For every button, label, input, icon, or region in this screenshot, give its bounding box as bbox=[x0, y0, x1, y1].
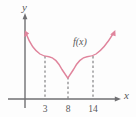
x-tick-label-8: 8 bbox=[66, 104, 71, 114]
x-tick-label-3: 3 bbox=[43, 104, 48, 114]
function-curve bbox=[27, 34, 114, 78]
x-axis-arrowhead bbox=[115, 97, 121, 102]
y-axis-arrowhead bbox=[23, 13, 28, 19]
x-axis-label: x bbox=[123, 89, 129, 101]
function-curve-label: f(x) bbox=[73, 36, 88, 48]
x-tick-label-14: 14 bbox=[88, 104, 98, 114]
axes bbox=[8, 13, 121, 108]
y-axis-label: y bbox=[21, 1, 27, 13]
function-curve-group bbox=[24, 30, 116, 78]
curve-right-arrowhead bbox=[110, 30, 115, 36]
graph-canvas: y x f(x) 3 8 14 bbox=[0, 0, 136, 117]
function-graph-figure: y x f(x) 3 8 14 bbox=[0, 0, 136, 117]
